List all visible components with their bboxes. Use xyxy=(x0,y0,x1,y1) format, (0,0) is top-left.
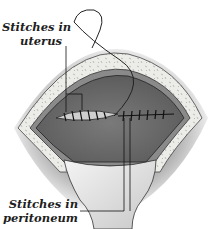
label-bottom-line2: peritoneum xyxy=(2,211,78,225)
label-top-line1: Stitches in xyxy=(2,20,62,34)
surgical-illustration: Stitches in uterus Stitches in peritoneu… xyxy=(0,0,214,229)
label-stitches-in-uterus: Stitches in uterus xyxy=(2,20,62,48)
label-top-line2: uterus xyxy=(2,34,62,48)
label-bottom-line1: Stitches in xyxy=(2,197,78,211)
label-stitches-in-peritoneum: Stitches in peritoneum xyxy=(2,197,78,225)
